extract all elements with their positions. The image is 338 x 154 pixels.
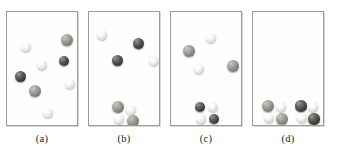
atom-sphere-light	[206, 33, 216, 43]
atom-sphere-light	[276, 102, 286, 112]
atom-sphere-light	[196, 114, 207, 125]
atom-sphere-gray	[112, 101, 124, 113]
atom-sphere-light	[97, 30, 107, 40]
atom-sphere-dark	[15, 71, 26, 82]
atom-sphere-gray	[227, 60, 239, 72]
panel-caption-1: (a)	[6, 133, 78, 144]
atom-sphere-gray	[262, 100, 274, 112]
panel-contents-3	[171, 12, 241, 125]
panel-contents-1	[7, 12, 77, 125]
panel-contents-4	[253, 12, 323, 125]
panel-caption-4: (d)	[252, 133, 324, 144]
atom-sphere-dark	[195, 102, 206, 113]
atom-sphere-light	[126, 105, 136, 115]
atom-sphere-light	[308, 102, 318, 112]
atom-sphere-dark	[308, 113, 319, 124]
panel-caption-3: (c)	[170, 133, 242, 144]
atom-sphere-light	[194, 64, 204, 74]
panel-caption-2: (b)	[88, 133, 160, 144]
atom-sphere-gray	[183, 45, 195, 57]
atom-sphere-gray	[29, 85, 42, 98]
atom-sphere-gray	[276, 113, 288, 125]
molecular-reaction-figure: (a)(b)(c)(d)	[0, 0, 338, 154]
panel-contents-2	[89, 12, 159, 125]
atom-sphere-dark	[112, 55, 123, 66]
panel-box-2	[88, 11, 160, 126]
panel-box-4	[252, 11, 324, 126]
atom-sphere-light	[21, 42, 31, 52]
atom-sphere-light	[37, 60, 47, 70]
atom-sphere-dark	[59, 56, 69, 66]
atom-sphere-light	[114, 114, 124, 124]
atom-sphere-light	[43, 108, 53, 118]
atom-sphere-dark	[133, 38, 144, 49]
atom-sphere-dark	[209, 114, 220, 125]
panel-box-3	[170, 11, 242, 126]
atom-sphere-light	[149, 56, 159, 66]
atom-sphere-light	[264, 113, 274, 123]
atom-sphere-light	[65, 79, 75, 89]
atom-sphere-gray	[127, 115, 139, 125]
atom-sphere-dark	[295, 100, 306, 111]
atom-sphere-light	[208, 102, 219, 113]
atom-sphere-gray	[61, 34, 73, 46]
panel-box-1	[6, 11, 78, 126]
atom-sphere-light	[297, 113, 307, 123]
